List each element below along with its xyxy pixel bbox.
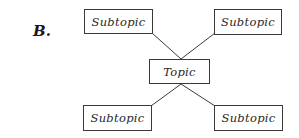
connector-bottom-left <box>151 84 181 106</box>
connector-top-right <box>181 33 215 59</box>
topic-box: Topic <box>149 59 210 84</box>
connector-top-left <box>152 33 181 59</box>
subtopic-box-top-left: Subtopic <box>84 9 153 34</box>
subtopic-box-bottom-left: Subtopic <box>83 105 152 131</box>
connector-bottom-right <box>181 84 215 106</box>
subtopic-box-top-right: Subtopic <box>214 9 282 35</box>
subtopic-box-bottom-right: Subtopic <box>214 105 283 131</box>
